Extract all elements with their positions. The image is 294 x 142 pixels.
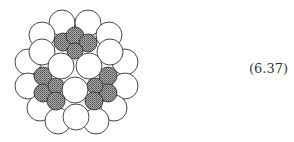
white-atom: [63, 104, 89, 130]
equation-number: (6.37): [249, 61, 288, 76]
hatched-atom: [85, 92, 103, 110]
hatched-atom: [87, 78, 103, 94]
hatched-atom: [47, 92, 65, 110]
atom-cluster-diagram: [0, 0, 160, 142]
white-atom: [76, 53, 102, 79]
white-atom: [48, 53, 74, 79]
white-atom: [62, 77, 88, 103]
